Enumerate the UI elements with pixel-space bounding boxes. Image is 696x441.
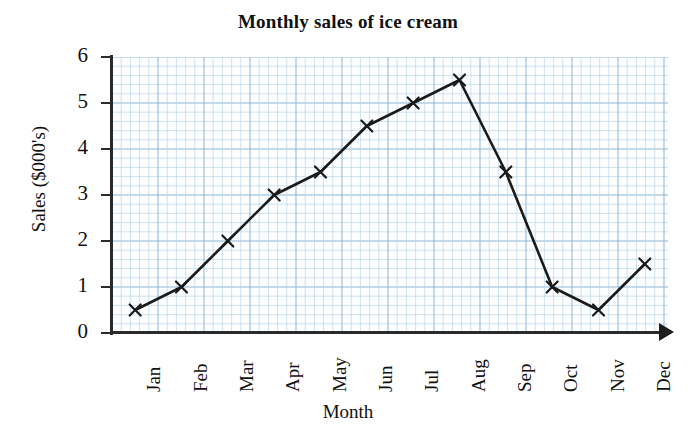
x-axis-tick-label-feb: Feb: [190, 336, 212, 392]
y-axis-tick: [101, 332, 112, 334]
x-axis-tick-label-apr: Apr: [282, 336, 304, 392]
y-axis-tick: [101, 240, 112, 242]
y-axis-tick: [101, 102, 112, 104]
y-axis-tick-label: 2: [48, 227, 88, 252]
y-axis-tick-label: 1: [48, 273, 88, 298]
x-axis-tick-label-jun: Jun: [375, 336, 397, 392]
y-axis-tick-label: 0: [48, 319, 88, 344]
x-axis-tick-label-aug: Aug: [468, 336, 490, 392]
y-axis-tick: [101, 194, 112, 196]
y-axis-tick-label: 3: [48, 181, 88, 206]
chart-figure: Monthly sales of ice cream 0123456 JanFe…: [0, 0, 696, 441]
x-axis-tick-label-dec: Dec: [653, 336, 675, 392]
x-axis-tick-label-jul: Jul: [421, 336, 443, 392]
y-axis-tick-label: 5: [48, 89, 88, 114]
y-axis-tick: [101, 56, 112, 58]
x-axis-tick-label-mar: Mar: [236, 336, 258, 392]
y-axis-tick: [101, 286, 112, 288]
x-axis-tick-label-may: May: [329, 336, 351, 392]
x-axis-tick-label-sep: Sep: [514, 336, 536, 392]
y-axis-tick: [101, 148, 112, 150]
x-axis-line: [110, 331, 666, 334]
y-axis-title: Sales ($000's): [28, 74, 50, 284]
plot-area: [112, 57, 668, 333]
x-axis-title: Month: [0, 401, 696, 423]
x-axis-tick-label-jan: Jan: [143, 336, 165, 392]
x-axis-tick-label-oct: Oct: [560, 336, 582, 392]
y-axis-tick-label: 6: [48, 43, 88, 68]
chart-title: Monthly sales of ice cream: [0, 11, 696, 33]
x-axis-tick-label-nov: Nov: [607, 336, 629, 392]
y-axis-tick-label: 4: [48, 135, 88, 160]
data-series-line: [112, 57, 668, 333]
